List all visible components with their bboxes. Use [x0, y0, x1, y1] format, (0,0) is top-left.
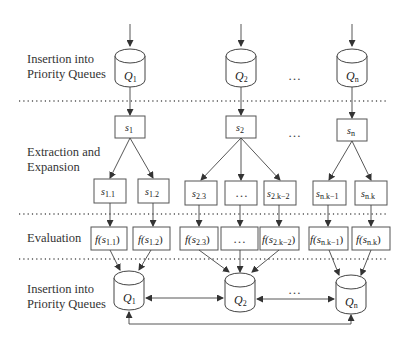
arrow-insert-7 [361, 250, 371, 275]
extracted-node-sn: sn [337, 119, 367, 141]
queue-cylinder-top-n: Qn [337, 49, 367, 87]
evaluated-node-f-s1-1: f(s1.1) [91, 227, 127, 250]
stage-label-insertion-bottom-line1: Insertion into [27, 282, 94, 296]
arrow-sn-snk1 [329, 141, 352, 180]
evaluated-node-f-sn-k-1: f(sn.k−1) [309, 227, 348, 250]
extracted-node-s2: s2 [226, 116, 256, 138]
queue-cylinder-bottom-n: Qn [336, 275, 366, 314]
extracted-node-s1: s1 [115, 116, 145, 138]
queue-cylinder-top-2: Q2 [226, 49, 256, 87]
svg-text:…: … [233, 231, 246, 246]
queue-cylinder-bottom-2: Q2 [225, 273, 255, 312]
ellipsis-queues-top: … [288, 68, 301, 83]
stage-label-insertion-top-line2: Priority Queues [27, 67, 106, 81]
stage-label-extraction-line1: Extraction and [27, 145, 101, 159]
arrow-insert-2 [139, 250, 151, 270]
arrow-s1-s12 [130, 138, 153, 178]
queue-cylinder-top-1: Q1 [115, 49, 145, 87]
arrow-insert-5 [252, 250, 279, 272]
expanded-node-s1-1: s1.1 [94, 179, 126, 203]
ellipsis-queues-bottom: … [288, 282, 301, 297]
stage-label-insertion-top-line1: Insertion into [27, 52, 94, 66]
arrow-insert-6 [329, 250, 339, 275]
evaluated-node-f-s1-2: f(s1.2) [133, 227, 170, 250]
expanded-node-s1-2: s1.2 [138, 179, 169, 203]
arrow-s2-s2k2 [241, 138, 280, 180]
expanded-node-s2-k-2: s2.k−2 [264, 181, 296, 205]
arrow-s1-s11 [110, 138, 130, 178]
link-qn-q1-loop [129, 312, 351, 324]
ellipsis-extracted: … [288, 125, 301, 140]
evaluated-node-ellipsis: … [221, 227, 258, 250]
expanded-node-sn-k-1: sn.k−1 [313, 181, 346, 205]
arrow-insert-3 [199, 250, 229, 272]
expanded-node-ellipsis: … [225, 181, 257, 205]
expanded-node-s2-3: s2.3 [185, 181, 217, 205]
evaluated-node-f-s2-k-2: f(s2.k−2) [260, 227, 299, 250]
expanded-node-sn-k: sn.k [355, 181, 387, 205]
svg-text:…: … [235, 185, 248, 200]
evaluated-node-f-sn-k: f(sn.k) [352, 227, 390, 250]
evaluated-node-f-s2-3: f(s2.3) [180, 227, 218, 250]
arrow-insert-1 [110, 250, 120, 270]
arrow-s2-s23 [201, 138, 241, 180]
queue-cylinder-bottom-1: Q1 [114, 271, 144, 310]
stage-label-evaluation: Evaluation [27, 231, 82, 245]
stage-label-insertion-bottom-line2: Priority Queues [27, 297, 106, 311]
parallel-search-diagram: Insertion into Priority Queues Extractio… [0, 0, 406, 341]
stage-label-extraction-line2: Expansion [27, 160, 81, 174]
arrow-sn-snk [352, 141, 371, 180]
